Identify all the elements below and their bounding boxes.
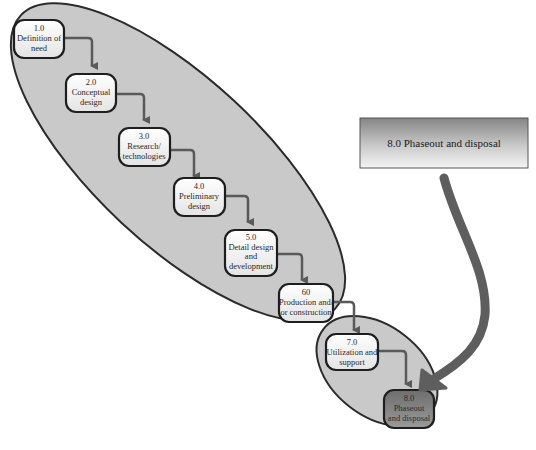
node-label: development	[229, 261, 274, 271]
callout-label: 8.0 Phaseout and disposal	[387, 137, 501, 149]
node-label: Preliminary	[179, 191, 220, 201]
stage-node-2[interactable]: 2.0 Conceptual design	[66, 74, 116, 112]
node-label: Utilization and	[327, 347, 379, 357]
node-label: design	[188, 201, 211, 211]
node-label: or construction	[280, 307, 332, 317]
stage-node-4[interactable]: 4.0 Preliminary design	[174, 178, 225, 216]
node-label: Research/	[127, 141, 161, 151]
node-label: 60	[302, 287, 311, 297]
node-label: design	[80, 97, 103, 107]
node-label: and disposal	[388, 413, 431, 423]
big-curved-arrow-icon	[420, 178, 485, 390]
stage-node-1[interactable]: 1.0 Definition of need	[14, 20, 64, 58]
stage-node-5[interactable]: 5.0 Detail design and development	[225, 230, 277, 276]
node-label: and	[245, 251, 258, 261]
node-label: 7.0	[347, 337, 358, 347]
node-label: Phaseout	[394, 403, 425, 413]
node-label: 4.0	[194, 181, 205, 191]
node-label: need	[31, 43, 48, 53]
node-label: technologies	[123, 151, 166, 161]
life-cycle-diagram: 1.0 Definition of need 2.0 Conceptual de…	[0, 0, 536, 450]
node-label: Definition of	[17, 33, 61, 43]
node-label: Conceptual	[72, 87, 111, 97]
stage-node-8[interactable]: 8.0 Phaseout and disposal	[384, 390, 434, 428]
stage-node-7[interactable]: 7.0 Utilization and support	[326, 334, 378, 370]
node-label: 2.0	[86, 77, 97, 87]
stage-node-3[interactable]: 3.0 Research/ technologies	[119, 128, 170, 166]
node-label: 5.0	[246, 232, 257, 242]
phaseout-callout-box[interactable]: 8.0 Phaseout and disposal	[360, 118, 528, 168]
node-label: 1.0	[34, 23, 45, 33]
stage-node-6[interactable]: 60 Production and/ or construction	[279, 284, 334, 322]
node-label: 3.0	[139, 131, 150, 141]
node-label: 8.0	[404, 393, 415, 403]
node-label: support	[339, 357, 365, 367]
node-label: Production and/	[279, 297, 334, 307]
